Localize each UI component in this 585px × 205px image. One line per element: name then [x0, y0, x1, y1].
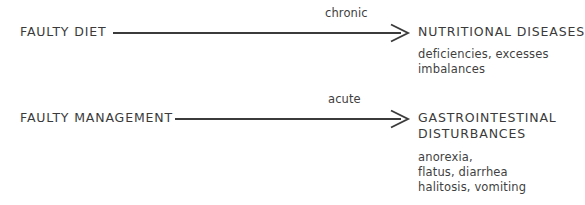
edge-label-chronic: chronic — [325, 8, 368, 20]
arrow-chronic — [113, 24, 410, 42]
target-node-nutritional-diseases: NUTRITIONAL DISEASES — [418, 26, 585, 39]
target-node-gastrointestinal-line1: GASTROINTESTINAL — [418, 112, 557, 125]
arrow-acute — [175, 110, 410, 128]
detail-nutritional-2: imbalances — [418, 64, 485, 76]
detail-nutritional-1: deficiencies, excesses — [418, 49, 549, 61]
source-node-faulty-diet: FAULTY DIET — [20, 26, 106, 39]
target-node-gastrointestinal-line2: DISTURBANCES — [418, 128, 526, 141]
source-node-faulty-management: FAULTY MANAGEMENT — [20, 112, 173, 125]
detail-gastrointestinal-1: anorexia, — [418, 152, 473, 164]
edge-label-acute: acute — [328, 94, 361, 106]
detail-gastrointestinal-2: flatus, diarrhea — [418, 167, 508, 179]
detail-gastrointestinal-3: halitosis, vomiting — [418, 182, 526, 194]
